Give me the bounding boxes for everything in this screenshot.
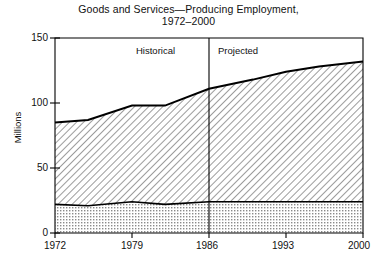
chart-figure: Goods and Services—Producing Employment,… [0,0,377,263]
chart-plot-svg [0,0,377,263]
x-axis-ticks [55,233,363,238]
